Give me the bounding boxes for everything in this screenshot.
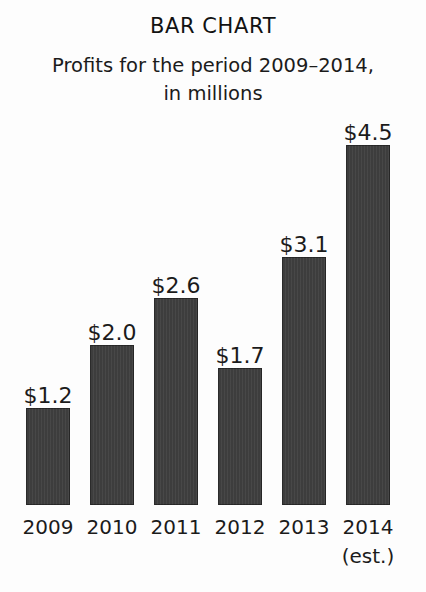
bar-rect-2012 [218,368,262,505]
bar-category-label-2014: 2014 (est.) [342,513,395,571]
category-year-2010: 2010 [87,515,138,539]
plot-area: $1.2 2009 $2.0 2010 $2.6 2011 $1.7 2012 [0,0,426,592]
bar-category-label-2013: 2013 [279,513,330,542]
bar-rect-2014 [346,145,390,505]
category-note-2014: (est.) [342,542,395,571]
bar-category-label-2010: 2010 [87,513,138,542]
bar-rect-2010 [90,345,134,505]
bar-chart-figure: BAR CHART Profits for the period 2009–20… [0,0,426,592]
category-year-2011: 2011 [151,515,202,539]
bar-rect-2009 [26,408,70,505]
bar-rect-2011 [154,298,198,505]
category-year-2009: 2009 [23,515,74,539]
category-year-2014: 2014 [343,515,394,539]
bar-value-label-2010: $2.0 [88,322,137,344]
category-year-2013: 2013 [279,515,330,539]
bar-value-label-2012: $1.7 [216,345,265,367]
bar-category-label-2011: 2011 [151,513,202,542]
bar-value-label-2009: $1.2 [24,385,73,407]
bar-value-label-2011: $2.6 [152,275,201,297]
bar-value-label-2013: $3.1 [280,234,329,256]
bar-category-label-2009: 2009 [23,513,74,542]
category-year-2012: 2012 [215,515,266,539]
bar-category-label-2012: 2012 [215,513,266,542]
bar-rect-2013 [282,257,326,505]
bar-value-label-2014: $4.5 [344,122,393,144]
